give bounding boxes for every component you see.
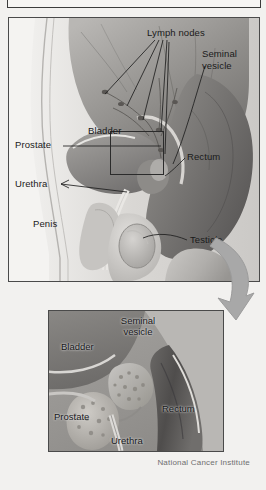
label-rectum: Rectum	[187, 151, 220, 162]
label-seminal-vesicle-line1: Seminal	[202, 48, 237, 59]
label-prostate: Prostate	[15, 139, 51, 150]
magnification-region-box	[110, 131, 164, 175]
clipped-top-frame	[7, 0, 261, 8]
label-seminal-vesicle-line2: vesicle	[202, 60, 232, 71]
magnified-detail-panel: Seminal vesicle Bladder Prostate Rectum …	[48, 310, 224, 452]
label-urethra: Urethra	[15, 178, 47, 189]
inset-label-rectum: Rectum	[162, 403, 195, 414]
label-seminal-vesicle: Seminal vesicle	[202, 48, 258, 72]
inset-label-seminal-vesicle-line1: Seminal	[121, 315, 155, 326]
inset-label-bladder: Bladder	[61, 341, 94, 352]
inset-label-seminal-vesicle-line2: vesicle	[123, 326, 152, 337]
label-penis: Penis	[33, 218, 57, 229]
image-credit: National Cancer Institute	[0, 458, 250, 467]
label-lymph-nodes: Lymph nodes	[147, 27, 205, 38]
inset-label-prostate: Prostate	[54, 411, 89, 422]
inset-label-seminal-vesicle: Seminal vesicle	[109, 315, 167, 337]
label-bladder: Bladder	[88, 125, 121, 136]
inset-label-urethra: Urethra	[111, 435, 143, 446]
